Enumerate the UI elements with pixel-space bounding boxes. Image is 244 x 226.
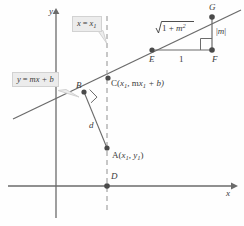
segment-label-run: 1 bbox=[179, 55, 184, 64]
callout-pointer-vertical-line bbox=[99, 31, 107, 44]
x-axis bbox=[8, 183, 238, 190]
a-end: ) bbox=[141, 150, 144, 160]
point-label-g: G bbox=[209, 3, 216, 12]
callout-line-lhs: y bbox=[17, 74, 21, 84]
point-dots bbox=[81, 14, 214, 189]
point-label-b: B bbox=[76, 81, 82, 90]
a-open-paren: A( bbox=[112, 150, 122, 160]
c-open-paren: C( bbox=[111, 78, 120, 88]
point-label-a: A(x1, y1) bbox=[112, 151, 144, 161]
figure-canvas bbox=[0, 0, 244, 226]
point-dot-g bbox=[209, 14, 215, 20]
rise-bar-right: | bbox=[224, 26, 226, 36]
callout-vertical-subscript: 1 bbox=[93, 22, 96, 29]
x-axis-label: x bbox=[226, 189, 230, 198]
point-dot-f bbox=[209, 47, 215, 53]
c-end: + b) bbox=[146, 78, 164, 88]
segment-label-rise: |m| bbox=[216, 27, 226, 36]
callout-line-equation: y=mx + b bbox=[12, 72, 59, 87]
hyp-one: 1 + bbox=[162, 23, 174, 33]
segment-label-hypotenuse: 1 + m2 bbox=[162, 23, 186, 33]
point-dot-b bbox=[81, 89, 86, 94]
callout-vertical-eq: = bbox=[83, 18, 88, 28]
point-dot-c bbox=[105, 75, 110, 80]
segment-d-perpendicular bbox=[84, 92, 107, 148]
point-label-e: E bbox=[149, 55, 155, 64]
callout-vertical-line: x=x1 bbox=[72, 16, 102, 32]
callout-line-rhs: mx + b bbox=[30, 74, 54, 84]
right-angle-marker-at-b bbox=[90, 90, 97, 103]
callout-line-eq: = bbox=[23, 74, 28, 84]
hyp-exponent: 2 bbox=[183, 22, 186, 29]
point-label-c: C(x1, mx1 + b) bbox=[111, 79, 164, 89]
y-axis-label: y bbox=[49, 7, 53, 16]
point-label-f: F bbox=[212, 55, 218, 64]
callout-vertical-lhs: x bbox=[77, 18, 81, 28]
point-dot-e bbox=[149, 47, 154, 52]
segment-label-d: d bbox=[89, 121, 94, 130]
point-dot-d bbox=[104, 183, 110, 189]
point-dot-a bbox=[104, 145, 109, 150]
point-label-d: D bbox=[111, 172, 118, 181]
line-y-equals-mx-plus-b bbox=[13, 10, 241, 119]
c-mid: , m bbox=[127, 78, 139, 88]
distance-point-line-figure: y x x=x1 y=mx + b B C(x1, mx1 + b) A(x1,… bbox=[0, 0, 244, 226]
